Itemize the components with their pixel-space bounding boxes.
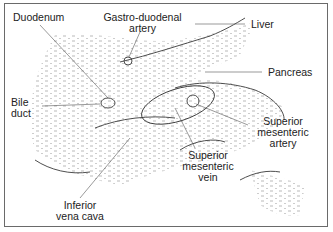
label-superior-mesenteric-artery: Superior mesenteric artery [248, 116, 318, 149]
label-gastro-duodenal-artery: Gastro-duodenal artery [100, 12, 185, 34]
label-line: artery [248, 138, 318, 149]
label-superior-mesenteric-vein: Superior mesenteric vein [173, 150, 243, 183]
label-duodenum: Duodenum [13, 12, 64, 23]
label-inferior-vena-cava: Inferior vena cava [45, 200, 115, 222]
label-line: artery [100, 23, 185, 34]
label-line: vein [173, 172, 243, 183]
label-line: vena cava [45, 211, 115, 222]
label-liver: Liver [251, 19, 274, 30]
label-line: duct [11, 108, 31, 119]
label-pancreas: Pancreas [268, 67, 312, 78]
label-bile-duct: Bile duct [11, 97, 31, 119]
